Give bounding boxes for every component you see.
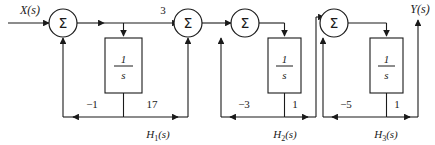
gain-label-forward-3: 3 bbox=[160, 4, 166, 16]
integrator-3-numerator: 1 bbox=[384, 53, 390, 65]
block-diagram-canvas: 1 s 1 s 1 s Σ Σ Σ bbox=[0, 0, 435, 145]
subsystem-label-h1: H1(s) bbox=[145, 128, 170, 143]
integrator-2-numerator: 1 bbox=[282, 53, 288, 65]
gain-label-h1-positive: 17 bbox=[147, 98, 159, 110]
subsystem-label-h2-suffix: (s) bbox=[285, 128, 297, 141]
summing-junction-2: Σ bbox=[174, 9, 202, 37]
input-signal-label: X(s) bbox=[19, 3, 40, 17]
gain-label-h2-positive: 1 bbox=[292, 98, 298, 110]
summing-junction-2-symbol: Σ bbox=[184, 15, 193, 31]
gain-label-h2-negative: −3 bbox=[238, 98, 250, 110]
integrator-1-denominator: s bbox=[121, 69, 125, 81]
summing-junction-3-symbol: Σ bbox=[241, 15, 250, 31]
subsystem-label-h3-suffix: (s) bbox=[386, 128, 398, 141]
gain-label-h1-negative: −1 bbox=[86, 98, 98, 110]
integrator-1-numerator: 1 bbox=[121, 53, 127, 65]
integrator-block-2: 1 s bbox=[268, 38, 301, 93]
integrator-3-denominator: s bbox=[384, 69, 388, 81]
summing-junction-4: Σ bbox=[320, 9, 348, 37]
summing-junction-1: Σ bbox=[49, 9, 77, 37]
summing-junction-1-symbol: Σ bbox=[59, 15, 68, 31]
subsystem-label-h1-suffix: (s) bbox=[158, 128, 170, 141]
subsystem-label-h2: H2(s) bbox=[272, 128, 297, 143]
integrator-2-denominator: s bbox=[282, 69, 286, 81]
integrator-block-3: 1 s bbox=[370, 38, 403, 93]
gain-label-h3-positive: 1 bbox=[394, 98, 400, 110]
subsystem-label-h3: H3(s) bbox=[373, 128, 398, 143]
integrator-block-1: 1 s bbox=[105, 38, 142, 93]
summing-junction-4-symbol: Σ bbox=[330, 15, 339, 31]
summing-junction-3: Σ bbox=[231, 9, 259, 37]
output-signal-label: Y(s) bbox=[410, 2, 429, 16]
gain-label-h3-negative: −5 bbox=[340, 98, 352, 110]
control-system-block-diagram: 1 s 1 s 1 s Σ Σ Σ bbox=[0, 0, 435, 145]
